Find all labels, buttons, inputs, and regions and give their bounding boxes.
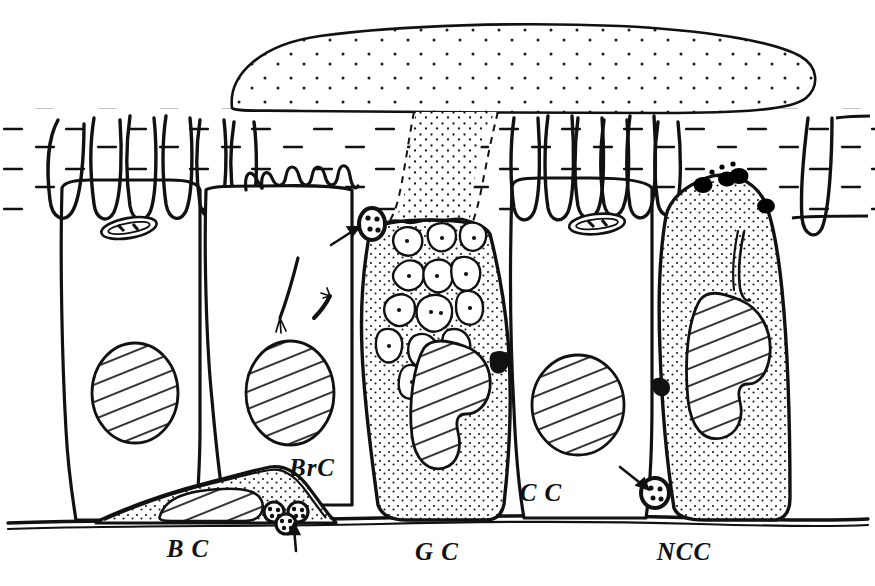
label-brush-cell: BrC xyxy=(288,454,335,481)
label-goblet-cell: G C xyxy=(415,538,459,565)
tight-junction-goblet xyxy=(359,208,385,240)
label-basal-cell: B C xyxy=(166,535,210,562)
mucus-blanket xyxy=(232,24,816,113)
label-ciliated-cell: C C xyxy=(520,479,563,506)
figure-canvas: B C BrC G C C C NCC xyxy=(0,0,875,586)
epithelium-diagram: B C BrC G C C C NCC xyxy=(0,0,875,586)
goblet-cell xyxy=(359,208,510,520)
nucleus-ciliated-right xyxy=(532,355,624,455)
brush-cell xyxy=(205,166,358,505)
label-nonciliated-cell: NCC xyxy=(656,538,711,565)
nucleus-ciliated-left xyxy=(92,343,178,443)
nucleus-brush-cell xyxy=(246,341,334,445)
